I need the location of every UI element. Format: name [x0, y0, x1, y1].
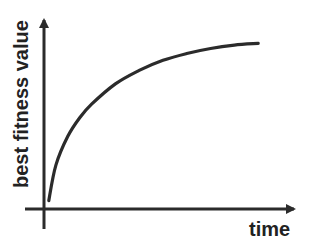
chart: time best fitness value: [0, 0, 313, 246]
fitness-curve: [49, 43, 258, 200]
x-axis-label: time: [249, 218, 290, 240]
y-axis-label: best fitness value: [10, 20, 32, 188]
